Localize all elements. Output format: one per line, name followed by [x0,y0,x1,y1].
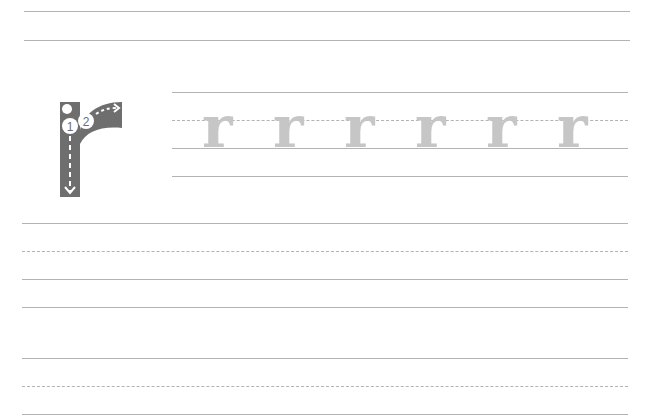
practice2-line-mid [22,386,628,387]
ruling-line-top-2 [24,40,630,41]
svg-text:2: 2 [83,115,90,129]
practice1-line-top [22,223,628,224]
practice2-line-base [22,414,628,415]
trace-letters-row: r r r r r r [172,92,628,178]
practice2-line-top [22,358,628,359]
model-letter-r: 1 2 [56,96,128,202]
practice1-line-mid [22,251,628,252]
practice1-line-base [22,279,628,280]
practice1-line-descender [22,307,628,308]
ruling-line-top-1 [24,11,630,12]
svg-text:1: 1 [67,120,74,134]
letter-r-stroke-guide-icon: 1 2 [56,96,128,202]
